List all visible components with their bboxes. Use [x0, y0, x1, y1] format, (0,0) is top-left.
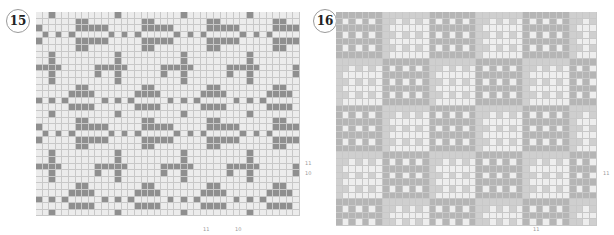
chart-cell [436, 139, 443, 146]
chart-cell [383, 45, 390, 52]
chart-cell [247, 111, 254, 118]
chart-cell [49, 32, 56, 39]
chart-cell [287, 38, 294, 45]
chart-cell [557, 146, 564, 153]
chart-cell [356, 193, 363, 200]
chart-cell [188, 58, 195, 65]
chart-cell [128, 25, 135, 32]
chart-cell [82, 210, 89, 217]
chart-cell [267, 137, 274, 144]
chart-cell [390, 25, 397, 32]
chart-cell [43, 38, 50, 45]
chart-cell [56, 85, 63, 92]
chart-cell [363, 119, 370, 126]
chart-cell [550, 32, 557, 39]
chart-cell [122, 131, 129, 138]
chart-cell [95, 137, 102, 144]
chart-cell [463, 193, 470, 200]
chart-cell [89, 58, 96, 65]
chart-cell [76, 38, 83, 45]
chart-cell [135, 131, 142, 138]
chart-cell [188, 65, 195, 72]
chart-cell [142, 150, 149, 157]
chart-cell [49, 118, 56, 125]
chart-cell [537, 86, 544, 93]
chart-cell [523, 99, 530, 106]
chart-cell [293, 111, 300, 118]
chart-cell [356, 159, 363, 166]
chart-cell [102, 98, 109, 105]
chart-cell [383, 206, 390, 213]
chart-cell [577, 119, 584, 126]
chart-cell [517, 193, 524, 200]
chart-cell [221, 45, 228, 52]
chart-cell [115, 144, 122, 151]
chart-cell [254, 91, 261, 98]
chart-cell [128, 52, 135, 59]
chart-cell [376, 146, 383, 153]
chart-cell [62, 144, 69, 151]
chart-cell [122, 104, 129, 111]
chart-cell [490, 173, 497, 180]
chart-cell [89, 177, 96, 184]
chart-cell [188, 190, 195, 197]
chart-cell [530, 152, 537, 159]
chart-cell [363, 112, 370, 119]
chart-cell [583, 66, 590, 73]
chart-cell [336, 112, 343, 119]
chart-cell [240, 137, 247, 144]
chart-cell [523, 19, 530, 26]
chart-cell [416, 99, 423, 106]
chart-cell [590, 159, 597, 166]
chart-cell [181, 197, 188, 204]
chart-cell [174, 137, 181, 144]
chart-cell [517, 139, 524, 146]
chart-cell [490, 139, 497, 146]
bottom-label: 11 [203, 226, 209, 232]
chart-cell [476, 59, 483, 66]
chart-cell [396, 173, 403, 180]
chart-cell [240, 210, 247, 217]
chart-cell [503, 59, 510, 66]
chart-cell [343, 86, 350, 93]
chart-cell [109, 45, 116, 52]
chart-cell [336, 72, 343, 79]
chart-cell [510, 72, 517, 79]
chart-cell [390, 52, 397, 59]
chart-cell [463, 25, 470, 32]
chart-cell [102, 144, 109, 151]
chart-cell [356, 213, 363, 220]
chart-cell [188, 78, 195, 85]
chart-cell [188, 144, 195, 151]
chart-cell [390, 45, 397, 52]
chart-cell [102, 203, 109, 210]
chart-cell [214, 65, 221, 72]
chart-cell [463, 213, 470, 220]
chart-cell [76, 98, 83, 105]
chart-cell [142, 164, 149, 171]
chart-cell [543, 179, 550, 186]
chart-cell [128, 98, 135, 105]
chart-cell [557, 45, 564, 52]
chart-cell [122, 203, 129, 210]
chart-cell [463, 52, 470, 59]
chart-cell [557, 19, 564, 26]
chart-cell [497, 12, 504, 19]
chart-cell [76, 12, 83, 19]
chart-cell [221, 118, 228, 125]
chart-cell [214, 157, 221, 164]
chart-cell [273, 91, 280, 98]
chart-cell [557, 52, 564, 59]
chart-cell [207, 85, 214, 92]
chart-cell [43, 32, 50, 39]
chart-cell [194, 78, 201, 85]
chart-cell [227, 45, 234, 52]
chart-cell [102, 65, 109, 72]
chart-cell [443, 92, 450, 99]
chart-cell [287, 197, 294, 204]
chart-cell [227, 131, 234, 138]
chart-cell [510, 126, 517, 133]
chart-cell [349, 193, 356, 200]
chart-cell [69, 25, 76, 32]
chart-cell [49, 197, 56, 204]
